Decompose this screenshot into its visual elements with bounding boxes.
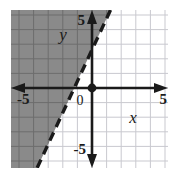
origin-point — [88, 84, 97, 93]
x-axis-name-label: x — [128, 108, 137, 127]
x-left-tick-label: -5 — [17, 91, 30, 107]
y-axis-name-label: y — [57, 25, 67, 44]
y-bottom-tick-label: -5 — [74, 141, 87, 157]
y-top-tick-label: 5 — [78, 12, 86, 28]
coordinate-plane-svg: 5 -5 -5 5 0 y x — [0, 0, 179, 178]
graph-figure: 5 -5 -5 5 0 y x — [0, 0, 179, 178]
origin-label: 0 — [77, 93, 84, 108]
x-right-tick-label: 5 — [160, 91, 168, 107]
